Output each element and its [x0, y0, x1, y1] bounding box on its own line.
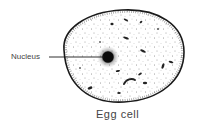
diagram-caption: Egg cell — [96, 108, 139, 120]
cell-membrane — [64, 10, 184, 102]
nucleus-label: Nucleus — [11, 52, 40, 61]
